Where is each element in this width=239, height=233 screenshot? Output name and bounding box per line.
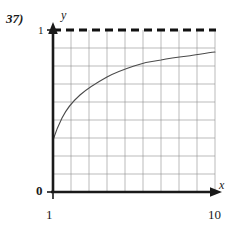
grid-horizontal-lines bbox=[53, 48, 215, 174]
problem-number-label: 37) bbox=[6, 12, 23, 25]
graph-plot-area bbox=[0, 0, 239, 233]
y-axis-name-label: y bbox=[61, 9, 66, 21]
curve-path bbox=[53, 52, 215, 140]
grid-vertical-lines bbox=[71, 30, 215, 192]
y-axis-arrowhead bbox=[48, 22, 58, 34]
origin-label: 0 bbox=[36, 184, 43, 197]
figure-container: 37) 1 0 1 10 y x bbox=[0, 0, 239, 233]
y-axis-max-tick-label: 1 bbox=[38, 25, 44, 36]
x-axis-start-tick-label: 1 bbox=[46, 208, 53, 221]
x-axis-end-tick-label: 10 bbox=[208, 208, 221, 221]
x-axis-name-label: x bbox=[219, 179, 224, 191]
